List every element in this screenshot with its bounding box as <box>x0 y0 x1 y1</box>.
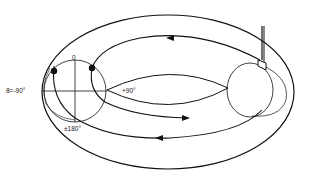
arrow-bottom-left <box>155 135 163 141</box>
field-line-outer-bottom <box>48 108 150 168</box>
marker-dot-right <box>89 65 95 71</box>
right-cross-section <box>227 63 273 117</box>
field-line-lower <box>53 66 262 138</box>
label-zero: 0 <box>72 54 76 61</box>
right-cross-section-rear <box>252 65 287 116</box>
field-line-top <box>91 36 260 118</box>
arrow-mid-right <box>182 115 190 121</box>
label-180: ±180° <box>64 125 81 132</box>
label-minus-90: θ=-90° <box>6 87 26 94</box>
label-plus-90: +90° <box>122 87 136 94</box>
marker-dot-left <box>51 68 57 74</box>
torus-diagram: 0 θ=-90° +90° ±180° <box>0 0 311 182</box>
probe-tip <box>258 60 266 70</box>
